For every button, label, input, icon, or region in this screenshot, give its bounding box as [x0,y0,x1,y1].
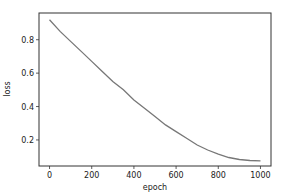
y-tick-label: 0.2 [21,136,34,145]
x-tick-label: 200 [84,171,99,180]
x-axis-label: epoch [143,183,167,192]
x-axis-ticks: 02004006008001000 [47,166,271,180]
x-tick-label: 400 [126,171,141,180]
y-tick-label: 0.6 [21,69,34,78]
x-tick-label: 600 [168,171,183,180]
y-axis-label: loss [3,81,12,96]
y-axis-ticks: 0.20.40.60.8 [21,36,39,145]
x-tick-label: 0 [47,171,52,180]
y-tick-label: 0.4 [21,103,34,112]
loss-line [50,20,261,161]
axes-frame [39,13,271,166]
series-line [50,20,261,161]
x-tick-label: 800 [211,171,226,180]
x-tick-label: 1000 [250,171,270,180]
y-tick-label: 0.8 [21,36,34,45]
loss-chart: 02004006008001000 0.20.40.60.8 epoch los… [0,0,285,196]
